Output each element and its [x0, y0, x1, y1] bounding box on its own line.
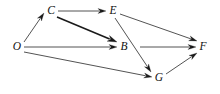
- edge-e-f: [120, 14, 197, 41]
- edge-g-f: [166, 53, 197, 74]
- edge-b-f: [140, 45, 196, 50]
- arrowhead-icon: [144, 64, 151, 72]
- edge-c-e: [58, 9, 106, 14]
- node-label-f: F: [198, 40, 207, 52]
- edge-shaft: [120, 14, 191, 39]
- node-label-g: G: [155, 71, 164, 83]
- edges-layer: [24, 9, 197, 78]
- node-label-b: B: [120, 40, 127, 52]
- node-label-e: E: [108, 4, 116, 16]
- arrowhead-icon: [37, 13, 44, 21]
- arrowhead-icon: [189, 53, 197, 60]
- edge-o-g: [24, 52, 152, 78]
- edge-o-b: [24, 45, 117, 50]
- node-label-o: O: [13, 40, 22, 52]
- node-label-c: C: [47, 4, 55, 16]
- directed-graph-diagram: OCEBGF: [0, 0, 220, 94]
- edge-c-b: [57, 17, 117, 42]
- edge-shaft: [57, 17, 110, 39]
- graph-canvas: OCEBGF: [0, 0, 220, 94]
- edge-o-c: [24, 13, 44, 42]
- edge-shaft: [24, 18, 40, 42]
- edge-shaft: [166, 57, 192, 74]
- edge-shaft: [24, 52, 146, 76]
